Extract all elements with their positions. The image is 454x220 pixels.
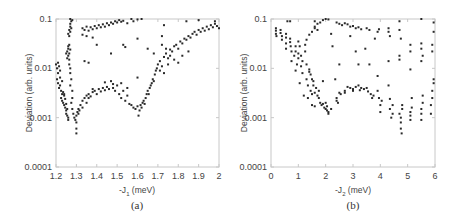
data-point xyxy=(295,45,297,47)
data-point xyxy=(75,132,77,134)
data-point xyxy=(124,100,126,102)
data-point xyxy=(378,97,380,99)
data-point xyxy=(218,27,220,29)
data-point xyxy=(61,100,63,102)
data-point xyxy=(420,113,422,115)
data-point xyxy=(334,78,336,80)
data-point xyxy=(110,21,112,23)
x-tick-label: 1 xyxy=(296,171,301,181)
data-point xyxy=(67,33,69,35)
data-point xyxy=(352,90,354,92)
data-point xyxy=(140,104,142,106)
data-point xyxy=(327,111,329,113)
data-point xyxy=(55,63,57,65)
data-point xyxy=(310,90,312,92)
data-point xyxy=(92,88,94,90)
data-point xyxy=(57,82,59,84)
data-point xyxy=(306,39,308,41)
data-point xyxy=(81,100,83,102)
data-point xyxy=(78,109,80,111)
data-point xyxy=(208,28,210,30)
data-point xyxy=(98,24,100,26)
data-point xyxy=(327,18,329,20)
x-tick-label: 2 xyxy=(216,171,221,181)
data-point xyxy=(56,67,58,69)
data-point xyxy=(366,27,368,29)
data-point xyxy=(409,68,411,70)
data-point xyxy=(69,31,71,33)
data-point xyxy=(214,20,216,22)
x-tick-label: 0 xyxy=(268,171,273,181)
data-point xyxy=(112,23,114,25)
scatter-points xyxy=(275,18,435,134)
data-point xyxy=(202,27,204,29)
data-point xyxy=(430,104,432,106)
data-point xyxy=(319,21,321,23)
data-point xyxy=(400,117,402,119)
data-point xyxy=(318,90,320,92)
data-point xyxy=(388,31,390,33)
data-point xyxy=(212,26,214,28)
data-point xyxy=(151,82,153,84)
data-point xyxy=(299,82,301,84)
data-point xyxy=(96,93,98,95)
y-tick-label: 0.0001 xyxy=(24,162,52,172)
data-point xyxy=(281,39,283,41)
data-point xyxy=(60,97,62,99)
data-point xyxy=(165,52,167,54)
y-tick-label: 0.1 xyxy=(39,14,52,24)
data-point xyxy=(289,38,291,40)
data-point xyxy=(308,34,310,36)
data-point xyxy=(104,81,106,83)
data-point xyxy=(175,44,177,46)
data-point xyxy=(337,102,339,104)
data-point xyxy=(73,117,75,119)
data-point xyxy=(92,28,94,30)
data-point xyxy=(69,84,71,86)
data-point xyxy=(57,72,59,74)
data-point xyxy=(118,19,120,21)
data-point xyxy=(194,31,196,33)
data-point xyxy=(360,28,362,30)
data-point xyxy=(71,97,73,99)
data-point xyxy=(204,30,206,32)
data-point xyxy=(86,26,88,28)
data-point xyxy=(433,78,435,80)
data-point xyxy=(65,113,67,115)
data-point xyxy=(367,90,369,92)
data-point xyxy=(65,52,67,54)
data-point xyxy=(157,63,159,65)
data-point xyxy=(142,102,144,104)
data-point xyxy=(336,97,338,99)
data-point xyxy=(420,60,422,62)
data-point xyxy=(311,31,313,33)
data-point xyxy=(275,35,277,37)
data-point xyxy=(311,104,313,106)
data-point xyxy=(108,24,110,26)
data-point xyxy=(303,95,305,97)
x-tick-label: 1.6 xyxy=(131,171,144,181)
data-point xyxy=(145,97,147,99)
data-point xyxy=(281,35,283,37)
data-point xyxy=(289,20,291,22)
data-point xyxy=(357,26,359,28)
data-point xyxy=(336,100,338,102)
data-point xyxy=(96,27,98,29)
data-point xyxy=(68,29,70,31)
data-point xyxy=(66,57,68,59)
data-point xyxy=(409,44,411,46)
data-point xyxy=(398,20,400,22)
data-point xyxy=(128,103,130,105)
data-point xyxy=(341,24,343,26)
data-point xyxy=(88,62,90,64)
data-point xyxy=(422,95,424,97)
data-point xyxy=(398,113,400,115)
data-point xyxy=(401,104,403,106)
data-point xyxy=(104,26,106,28)
data-point xyxy=(308,68,310,70)
data-point xyxy=(76,111,78,113)
data-point xyxy=(420,119,422,121)
data-point xyxy=(285,42,287,44)
data-point xyxy=(60,90,62,92)
data-point xyxy=(108,88,110,90)
